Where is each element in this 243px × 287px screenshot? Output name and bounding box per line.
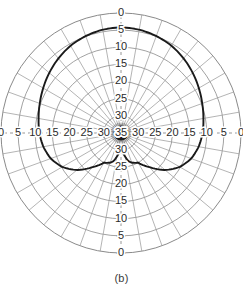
svg-text:5: 5 <box>118 23 124 35</box>
svg-text:10: 10 <box>115 212 127 224</box>
svg-text:30: 30 <box>132 126 144 138</box>
svg-text:30: 30 <box>115 109 127 121</box>
svg-text:15: 15 <box>46 126 58 138</box>
svg-text:0: 0 <box>238 126 243 138</box>
svg-text:5: 5 <box>118 229 124 241</box>
svg-text:0: 0 <box>118 246 124 258</box>
svg-text:5: 5 <box>221 126 227 138</box>
svg-text:20: 20 <box>63 126 75 138</box>
svg-text:10: 10 <box>201 126 213 138</box>
svg-text:30: 30 <box>115 143 127 155</box>
svg-text:15: 15 <box>115 194 127 206</box>
svg-text:35: 35 <box>115 126 127 138</box>
svg-text:20: 20 <box>115 74 127 86</box>
svg-text:5: 5 <box>15 126 21 138</box>
svg-text:15: 15 <box>115 57 127 69</box>
polar-figure: 0055101015152020252530303535353530302525… <box>0 0 243 287</box>
svg-text:0: 0 <box>118 6 124 18</box>
tick-labels: 0055101015152020252530303535353530302525… <box>0 6 243 258</box>
svg-text:10: 10 <box>115 40 127 52</box>
svg-text:25: 25 <box>115 92 127 104</box>
svg-text:20: 20 <box>115 177 127 189</box>
polar-plot: 0055101015152020252530303535353530302525… <box>0 0 243 287</box>
svg-text:30: 30 <box>98 126 110 138</box>
svg-text:0: 0 <box>0 126 4 138</box>
svg-text:20: 20 <box>166 126 178 138</box>
svg-text:25: 25 <box>81 126 93 138</box>
svg-text:25: 25 <box>115 160 127 172</box>
figure-caption: (b) <box>0 272 243 284</box>
svg-text:25: 25 <box>149 126 161 138</box>
svg-text:15: 15 <box>183 126 195 138</box>
svg-text:10: 10 <box>29 126 41 138</box>
